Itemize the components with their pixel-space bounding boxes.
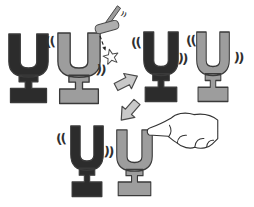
mallet-motion-ticks-icon: ))	[120, 9, 128, 18]
strike-arrowhead-icon	[102, 46, 106, 50]
vibration-marks-icon: ((	[44, 34, 55, 50]
vibration-marks-icon: ))	[233, 50, 244, 66]
dark-tuning-fork-2	[144, 32, 179, 102]
gray-tuning-fork-2	[197, 32, 230, 102]
vibration-marks-icon: ((	[185, 33, 196, 49]
vibration-marks-icon: ((	[55, 131, 66, 147]
arrow-right-icon	[112, 69, 141, 95]
vibration-marks-icon: ))	[177, 51, 188, 67]
gray-tuning-fork-3	[117, 130, 153, 196]
dark-tuning-fork-3	[71, 126, 104, 197]
diagram-canvas: (( )) )) (( )) (( )) ((	[0, 0, 254, 207]
mallet-icon	[94, 6, 120, 35]
vibration-marks-icon: ))	[95, 61, 106, 77]
panel-resonance: (( )) (( ))	[130, 32, 244, 102]
arrow-down-left-icon	[115, 96, 144, 125]
panel-strike: (( )) ))	[9, 6, 128, 104]
pointing-hand-icon	[147, 113, 217, 148]
vibration-marks-icon: ))	[103, 144, 114, 160]
gray-tuning-fork-1	[58, 33, 100, 104]
resonance-diagram: (( )) )) (( )) (( )) ((	[0, 0, 254, 207]
vibration-marks-icon: ((	[130, 35, 141, 51]
panel-damping: (( ))	[55, 113, 217, 196]
hand-silhouette	[147, 113, 217, 148]
dark-tuning-fork-1	[9, 34, 48, 103]
